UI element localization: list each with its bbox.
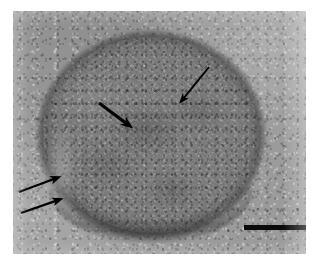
electron-micrograph-image (13, 11, 306, 254)
virus-particle (35, 29, 267, 241)
scale-bar (244, 225, 306, 230)
virus-bottom-crescent (49, 189, 253, 243)
figure-root (0, 0, 323, 266)
